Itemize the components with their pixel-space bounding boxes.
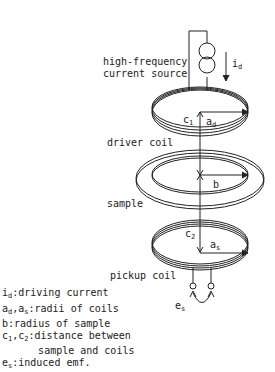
sample-label: sample [107,198,143,209]
b-label: b [213,179,219,190]
source-label-line1: high-frequency [103,56,187,67]
source-label-line2: current source [103,68,187,79]
legend-row: c1,c2:distance between [2,330,134,346]
legend-row: id:driving current [2,287,134,303]
driver-coil-label: driver coil [107,137,173,148]
as-label: as [210,239,220,254]
legend-row: ad,as:radii of coils [2,303,134,319]
ad-label: ad [206,116,216,131]
pickup-coil-label: pickup coil [110,270,176,281]
c2-label: c2 [185,228,195,243]
source-wire-left [189,31,207,90]
legend-row: b:radius of sample [2,318,134,330]
legend: id:driving current ad,as:radii of coils … [2,287,134,372]
es-label: es [175,300,185,315]
legend-row: es:induced emf. [2,357,134,372]
legend-row: sample and coils [2,345,134,357]
current-label: id [232,58,242,73]
c1-label: c1 [183,114,193,129]
